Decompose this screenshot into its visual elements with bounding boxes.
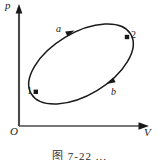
v-axis-label: V bbox=[144, 127, 151, 138]
p-axis-arrowhead bbox=[16, 4, 23, 14]
path-a-label: a bbox=[56, 24, 61, 34]
point-2-marker bbox=[125, 35, 129, 39]
path-b-label: b bbox=[111, 87, 116, 97]
point-1-label: 1 bbox=[27, 86, 32, 96]
pv-diagram-figure: p V O a b 1 2 图 7-22 ... bbox=[0, 0, 159, 160]
figure-caption: 图 7-22 ... bbox=[0, 150, 159, 160]
p-axis-label: p bbox=[5, 0, 11, 11]
pv-diagram-canvas bbox=[0, 0, 159, 160]
point-1-marker bbox=[34, 90, 38, 94]
cycle-ellipse-curve bbox=[15, 8, 146, 121]
origin-label: O bbox=[10, 126, 18, 137]
point-2-label: 2 bbox=[131, 30, 136, 40]
